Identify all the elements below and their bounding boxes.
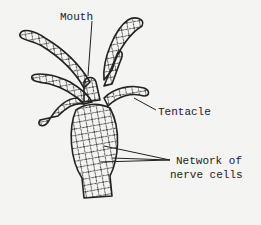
body-column [71, 104, 117, 198]
hypostome [84, 78, 100, 103]
tentacle-label: Tentacle [158, 105, 211, 119]
mouth-leader [88, 21, 92, 76]
network-label-line2: nerve cells [170, 168, 243, 182]
hydra-illustration [0, 0, 261, 225]
tentacle-right [104, 86, 149, 106]
mouth-label: Mouth [60, 10, 93, 24]
network-label-line1: Network of [176, 154, 242, 168]
tentacle-leader [134, 98, 156, 110]
